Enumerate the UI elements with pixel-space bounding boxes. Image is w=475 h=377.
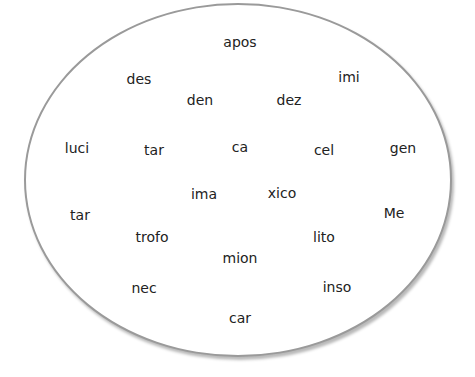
word-mion: mion xyxy=(223,251,258,265)
word-xico: xico xyxy=(268,186,296,200)
word-car: car xyxy=(229,311,251,325)
word-luci: luci xyxy=(65,141,89,155)
word-cel: cel xyxy=(314,143,334,157)
word-apos: apos xyxy=(223,35,256,49)
word-tar-2: tar xyxy=(70,208,90,222)
word-inso: inso xyxy=(323,280,352,294)
word-ellipse xyxy=(24,3,452,357)
word-imi: imi xyxy=(338,70,359,84)
word-des: des xyxy=(127,72,152,86)
word-ca: ca xyxy=(232,140,248,154)
word-lito: lito xyxy=(313,230,335,244)
word-gen: gen xyxy=(390,141,416,155)
word-nec: nec xyxy=(131,281,156,295)
word-ima: ima xyxy=(191,187,217,201)
word-me: Me xyxy=(384,206,405,220)
word-dez: dez xyxy=(277,93,302,107)
word-tar-1: tar xyxy=(144,143,164,157)
word-den: den xyxy=(187,93,213,107)
word-trofo: trofo xyxy=(136,230,169,244)
